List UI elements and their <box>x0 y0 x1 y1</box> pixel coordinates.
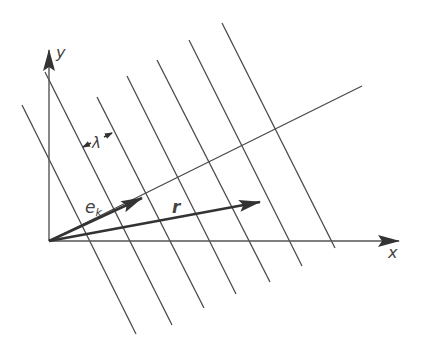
wavefront-2 <box>45 72 172 325</box>
unit-vector-label: ek <box>85 197 102 219</box>
wavelength-label: λ <box>91 134 101 152</box>
wavefront-3 <box>97 97 204 308</box>
plane-wave-diagram: y x λ ek r <box>0 0 424 355</box>
position-vector-label: r <box>172 197 182 217</box>
unit-vector-main: e <box>85 197 95 217</box>
lambda-arrow-left <box>83 143 91 147</box>
lambda-arrow-right <box>104 133 112 137</box>
wavefront-6 <box>189 40 302 266</box>
unit-vector-subscript: k <box>95 206 102 219</box>
unit-vector-ek-arrow <box>49 198 142 241</box>
wavefront-7 <box>222 23 335 248</box>
y-axis-label: y <box>55 43 66 62</box>
wavefront-lines <box>22 23 335 334</box>
x-axis-label: x <box>387 243 398 262</box>
